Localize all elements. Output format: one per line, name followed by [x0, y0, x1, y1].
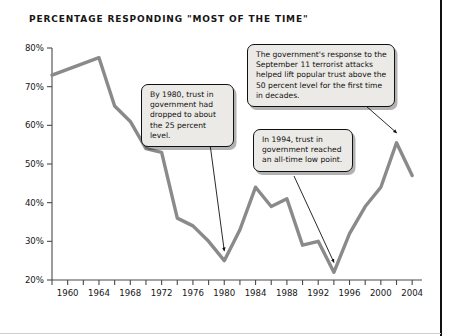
x-tick-label: 1992: [307, 288, 329, 298]
x-tick-label: 1964: [88, 288, 110, 298]
y-tick-label: 70%: [25, 82, 44, 92]
x-tick-label: 1968: [119, 288, 141, 298]
y-axis-ticks: 20%30%40%50%60%70%80%: [25, 43, 52, 285]
y-tick-label: 80%: [25, 43, 44, 53]
x-tick-label: 1996: [339, 288, 361, 298]
x-tick-label: 1988: [276, 288, 298, 298]
x-axis-ticks: 1960196419681972197619801984198819921996…: [52, 280, 423, 298]
y-tick-label: 30%: [25, 236, 44, 246]
leader-1994: [294, 176, 334, 262]
callout-1994-text: In 1994, trust in government reached an …: [262, 135, 345, 166]
y-tick-label: 50%: [25, 159, 44, 169]
callout-september-11-text: The government's response to the Septemb…: [256, 50, 387, 101]
x-tick-label: 1960: [57, 288, 79, 298]
x-tick-label: 1976: [182, 288, 204, 298]
callout-1980-text: By 1980, trust in government had dropped…: [150, 90, 226, 141]
callout-1994: In 1994, trust in government reached an …: [253, 129, 353, 172]
x-tick-label: 1980: [213, 288, 235, 298]
page-bottom-rule: [0, 333, 441, 334]
chart-page: PERCENTAGE RESPONDING "MOST OF THE TIME"…: [0, 0, 463, 336]
y-tick-label: 60%: [25, 120, 44, 130]
leader-september-11: [366, 106, 397, 133]
leader-1980: [208, 129, 224, 251]
callout-1980: By 1980, trust in government had dropped…: [141, 84, 234, 147]
x-tick-label: 2004: [401, 288, 423, 298]
callout-september-11: The government's response to the Septemb…: [247, 44, 395, 107]
x-tick-label: 1984: [245, 288, 267, 298]
y-tick-label: 20%: [25, 275, 44, 285]
y-tick-label: 40%: [25, 198, 44, 208]
x-tick-label: 1972: [151, 288, 173, 298]
x-tick-label: 2000: [370, 288, 392, 298]
page-edge-rule: [440, 0, 442, 336]
